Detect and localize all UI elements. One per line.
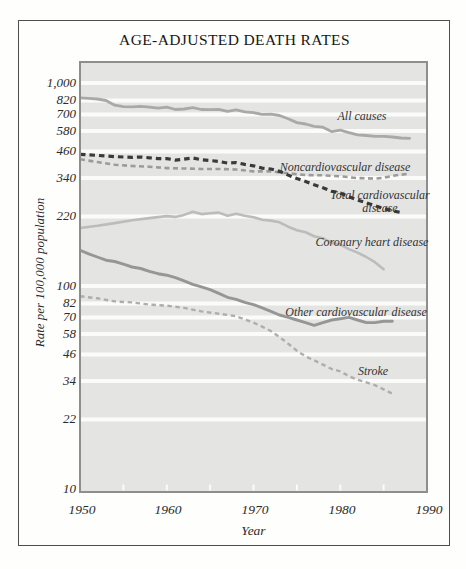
y-tick-label-22: 22 — [20, 411, 76, 426]
y-tick-label-10: 10 — [20, 481, 76, 496]
series-label-coronary-heart-disease: Coronary heart disease — [292, 236, 452, 249]
x-tick-label-1960: 1960 — [140, 502, 196, 518]
series-label-total-cardiovascular-disease: Total cardiovascular disease — [324, 189, 436, 214]
series-label-other-cardiovascular-disease: Other cardiovascular disease — [261, 306, 451, 319]
y-tick-label-820: 820 — [20, 92, 76, 107]
y-tick-label-700: 700 — [20, 106, 76, 121]
y-tick-label-580: 580 — [20, 123, 76, 138]
y-tick-label-1000: 1,000 — [20, 75, 76, 90]
x-tick-label-1950: 1950 — [54, 502, 110, 518]
x-tick-label-1980: 1980 — [314, 502, 370, 518]
y-tick-label-460: 460 — [20, 143, 76, 158]
series-label-all-causes: All causes — [322, 110, 402, 123]
series-label-line-1: Total cardiovascular — [324, 189, 436, 202]
series-label-stroke: Stroke — [338, 365, 408, 378]
x-axis-title: Year — [203, 523, 304, 539]
x-tick-label-1970: 1970 — [227, 502, 283, 518]
y-axis-title: Rate per 100,000 population — [32, 164, 49, 382]
plot-background — [80, 62, 427, 492]
x-tick-label-1990: 1990 — [401, 502, 457, 518]
series-label-line-2: disease — [324, 202, 436, 215]
series-label-noncardiovascular-disease: Noncardiovascular disease — [255, 161, 435, 174]
figure: AGE-ADJUSTED DEATH RATES 1,0008207005804… — [0, 0, 466, 569]
